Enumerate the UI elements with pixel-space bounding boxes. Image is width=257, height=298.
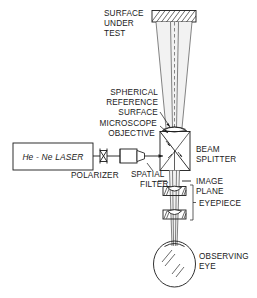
label-polarizer: POLARIZER	[71, 171, 119, 180]
eyepiece	[163, 185, 196, 220]
viewing-beam	[169, 171, 180, 247]
label-spherical-line1: SPHERICAL	[110, 88, 158, 97]
optical-diagram-figure: He - Ne LASER	[0, 0, 257, 298]
label-spherical-line2: REFERENCE	[106, 98, 158, 107]
label-eyepiece: EYEPIECE	[199, 199, 242, 208]
label-beam-splitter-line2: SPLITTER	[196, 155, 236, 164]
label-surface-under-test-line3: TEST	[104, 29, 126, 38]
label-microscope-line1: MICROSCOPE	[100, 119, 158, 128]
incoming-laser-beam	[144, 151, 175, 171]
diagram-canvas: He - Ne LASER	[0, 0, 257, 298]
label-image-plane-line1: IMAGE	[196, 177, 224, 186]
label-observing-eye-line2: EYE	[199, 262, 216, 271]
polarizer	[100, 149, 107, 164]
label-surface-under-test-line2: UNDER	[104, 19, 134, 28]
label-spatial-filter-line1: SPATIAL	[131, 170, 165, 179]
label-beam-splitter-line1: BEAM	[196, 145, 220, 154]
label-surface-under-test-line1: SURFACE	[104, 9, 144, 18]
spatial-filter	[120, 149, 145, 163]
he-ne-laser: He - Ne LASER	[13, 143, 93, 170]
label-microscope-line2: OBJECTIVE	[108, 129, 155, 138]
label-image-plane-line2: PLANE	[196, 187, 224, 196]
laser-label: He - Ne LASER	[22, 152, 83, 162]
observing-eye	[154, 241, 196, 287]
label-observing-eye-line1: OBSERVING	[199, 252, 249, 261]
beam-splitter	[160, 132, 190, 171]
surface-under-test	[150, 8, 202, 24]
label-spherical-line3: SURFACE	[118, 108, 158, 117]
label-spatial-filter-line2: FILTER	[140, 180, 169, 189]
